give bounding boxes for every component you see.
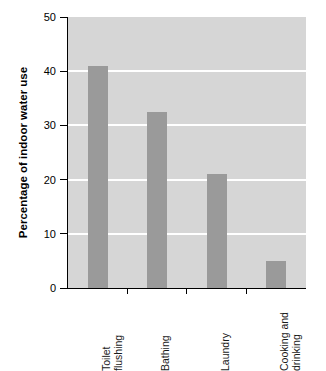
y-axis-tick: 30	[44, 118, 67, 132]
x-axis-labels: Toilet flushingBathingLaundryCooking and…	[67, 296, 305, 371]
x-axis-label: Cooking and drinking	[279, 296, 302, 371]
y-axis-tick-mark	[60, 71, 67, 72]
y-axis-tick-label: 10	[44, 227, 60, 241]
y-axis-tick: 50	[44, 10, 67, 24]
y-axis-tick-mark	[60, 17, 67, 18]
y-axis: 50403020100	[38, 17, 67, 288]
bar[interactable]	[266, 261, 286, 288]
y-axis-tick: 0	[50, 281, 67, 295]
y-axis-tick: 10	[44, 227, 67, 241]
y-axis-tick-label: 40	[44, 64, 60, 78]
x-axis-tick-mark	[186, 289, 187, 294]
y-axis-tick-label: 50	[44, 10, 60, 24]
y-axis-tick-label: 30	[44, 118, 60, 132]
y-axis-tick: 40	[44, 64, 67, 78]
y-axis-tick-mark	[60, 233, 67, 234]
y-axis-tick-label: 20	[44, 173, 60, 187]
x-axis-label: Toilet flushing	[101, 296, 124, 371]
y-axis-tick-mark	[60, 179, 67, 180]
bar[interactable]	[88, 66, 108, 288]
bar-chart-figure: Percentage of indoor water use 504030201…	[0, 0, 326, 371]
bar[interactable]	[207, 174, 227, 288]
y-axis-tick-mark	[60, 125, 67, 126]
x-axis-tick-mark	[246, 289, 247, 294]
bar[interactable]	[147, 112, 167, 288]
x-axis-tick-marks	[67, 289, 305, 295]
plot-surface	[68, 17, 306, 288]
x-axis-tick-mark	[127, 289, 128, 294]
x-axis-label: Laundry	[220, 296, 232, 371]
y-axis-tick: 20	[44, 173, 67, 187]
plot-area	[67, 17, 306, 289]
x-axis-label: Bathing	[160, 296, 172, 371]
y-axis-title: Percentage of indoor water use	[14, 17, 32, 288]
y-axis-tick-mark	[60, 288, 67, 289]
y-axis-tick-label: 0	[50, 281, 60, 295]
